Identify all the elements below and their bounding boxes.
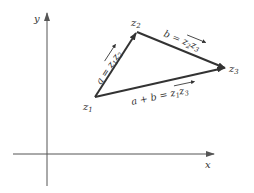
y-axis-label: y xyxy=(33,13,40,24)
label-vector-a-plus-b: a + b = z1z3 xyxy=(130,81,197,108)
label-z1: z1 xyxy=(82,101,93,114)
label-z2: z2 xyxy=(130,17,141,30)
label-vector-a: a = z1z2 xyxy=(93,44,128,87)
vector-addition-diagram: y x z1 z2 z3 a = z1z2 b = z2z3 a + b = z… xyxy=(0,0,254,193)
label-z3: z3 xyxy=(228,63,239,76)
x-axis-label: x xyxy=(205,159,211,170)
